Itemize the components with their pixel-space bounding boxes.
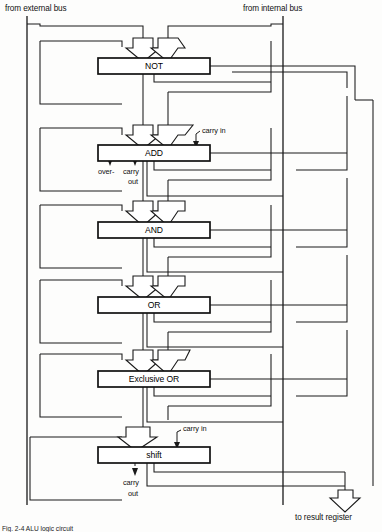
outer-ring-or [210,255,347,322]
signal-label-shift-carry-in: carry in [183,424,206,433]
signal-label-add-carry: carry [123,167,139,176]
feed-internal-to-not [168,24,283,48]
signal-arrow-shift-carry-in [174,430,181,449]
figure-caption: Fig. 2-4 ALU logic circuit [2,525,73,532]
signal-arrow-shift-carry-out [132,463,138,476]
outer-ring-add [210,96,347,170]
feed-external-to-not [27,24,143,48]
signal-label-add-carry-out: out [128,177,138,186]
unit-label-shift: shift [98,450,210,460]
signal-label-add-overflow: over- [98,167,114,176]
signal-label-add-carry-in: carry in [202,126,225,135]
unit-label-add: ADD [98,148,210,158]
right-outer-bus [355,88,373,466]
output-label-result-register: to result register [295,513,352,522]
unit-label-and: AND [98,225,210,235]
signal-label-shift-carry-out: out [128,489,138,498]
arrow-to-result-register [330,490,360,512]
input-label-external-bus: from external bus [5,4,67,13]
unit-label-not: NOT [98,61,210,71]
input-label-internal-bus: from internal bus [243,4,302,13]
signal-label-shift-carry: carry [123,478,139,487]
outer-ring-and [210,178,347,247]
outer-ring-xor [210,330,347,396]
shift-output-path [147,463,373,492]
unit-label-or: OR [98,300,210,310]
unit-label-exclusive-or: Exclusive OR [98,374,210,384]
alu-block-diagram: .w { fill:none; stroke:#1a1a1a; stroke-w… [0,0,382,532]
chain-xor-to-shift [143,387,283,437]
